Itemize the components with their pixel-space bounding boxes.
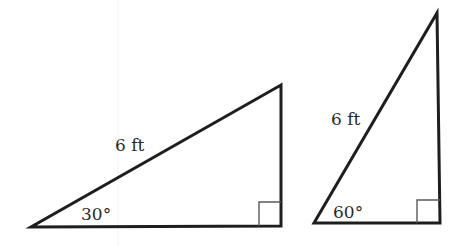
hypotenuse-label-left: 6 ft <box>115 135 145 155</box>
right-angle-marker-left <box>259 202 281 226</box>
triangles-figure: 6 ft 30° 6 ft 60° <box>0 0 465 246</box>
triangle-left-outline <box>31 85 281 227</box>
triangle-60-degree: 6 ft 60° <box>314 13 440 223</box>
right-angle-marker-right <box>417 200 440 223</box>
angle-label-60: 60° <box>333 202 363 222</box>
hypotenuse-label-right: 6 ft <box>331 109 361 129</box>
triangle-30-degree: 6 ft 30° <box>31 85 281 227</box>
angle-label-30: 30° <box>81 204 111 224</box>
